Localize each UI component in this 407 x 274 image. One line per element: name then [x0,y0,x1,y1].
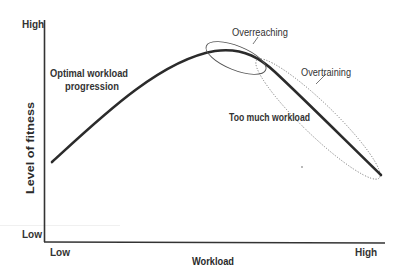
y-tick-high: High [22,19,44,30]
overreaching-region-ellipse [202,35,270,81]
x-tick-high: High [355,247,377,258]
optimal-progression-label-line2: progression [65,81,119,92]
x-tick-low: Low [50,247,70,258]
stray-dot [301,166,303,168]
fitness-workload-diagram: High Low Level of fitness Low High Workl… [0,0,407,274]
too-much-workload-label: Too much workload [229,112,310,123]
x-axis-label: Workload [192,255,234,267]
x-axis [44,242,385,243]
optimal-progression-label-line1: Optimal workload [50,68,128,79]
axes [44,20,385,243]
overreaching-leader-line [253,37,258,44]
y-axis-label: Level of fitness [24,102,36,194]
y-tick-low: Low [22,229,42,240]
overreaching-label: Overreaching [232,27,288,38]
overtraining-label: Overtraining [301,67,351,78]
